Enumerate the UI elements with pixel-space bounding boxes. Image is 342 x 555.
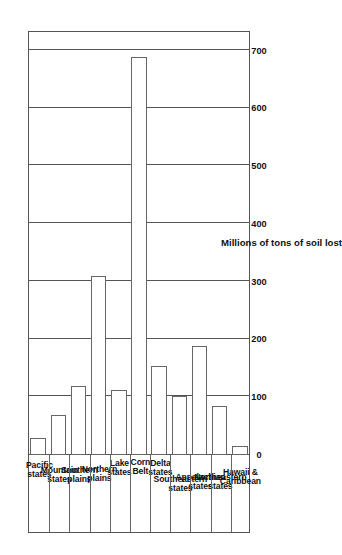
bar-mountain-states	[51, 415, 66, 455]
category-label-cell: Lakestates	[110, 454, 130, 532]
category-separator	[130, 455, 131, 532]
tick-label-300: 300	[254, 262, 264, 302]
bar-lake-states	[111, 390, 126, 455]
category-separator	[110, 455, 111, 532]
bar-southeastern-states	[172, 396, 187, 455]
bar-row	[48, 31, 68, 455]
tick-label-0: 0	[254, 435, 264, 475]
category-separator	[150, 455, 151, 532]
category-label-cell: CornBelt	[130, 454, 150, 532]
bar-northeastern-states	[212, 406, 227, 455]
bar-row	[169, 31, 189, 455]
bar-corn-belt	[131, 57, 146, 455]
category-label-cell: Appalachianstates	[190, 454, 210, 532]
category-label-cell: Northeasternstates	[211, 454, 231, 532]
bar-southern-plains	[71, 386, 86, 455]
category-separator	[170, 455, 171, 532]
bar-delta-states	[151, 366, 166, 455]
tick-label-text: 700	[251, 46, 266, 56]
tick-label-text: 200	[251, 335, 266, 345]
axis-title: Millions of tons of soil lost	[276, 31, 287, 455]
bar-northern-plains	[91, 276, 106, 455]
axis-title-text: Millions of tons of soil lost	[221, 238, 342, 249]
category-separator	[90, 455, 91, 532]
bar-row	[28, 31, 48, 455]
bar-pacific-states	[30, 438, 45, 455]
category-label-cell: Hawaii &Caribbean	[231, 454, 251, 532]
bar-appalachian-states	[192, 347, 207, 456]
category-label-line: states	[108, 469, 132, 478]
category-separator	[190, 455, 191, 532]
category-axis: PacificstatesMountainstatesSouthernplain…	[28, 455, 250, 533]
tick-label-text: 400	[251, 219, 266, 229]
tick-label-text: 0	[256, 450, 261, 460]
category-label: Lakestates	[108, 460, 132, 479]
category-label-line: Caribbean	[220, 478, 261, 487]
tick-label-text: 600	[251, 104, 266, 114]
bar-row	[189, 31, 209, 455]
tick-label-text: 300	[251, 277, 266, 287]
tick-label-200: 200	[254, 320, 264, 360]
bar-row	[89, 31, 109, 455]
tick-label-500: 500	[254, 146, 264, 186]
tick-label-700: 700	[254, 31, 264, 71]
tick-label-text: 100	[251, 392, 266, 402]
bar-row	[68, 31, 88, 455]
category-label-line: Belt	[130, 467, 150, 476]
tick-label-text: 500	[251, 161, 266, 171]
tick-label-600: 600	[254, 89, 264, 129]
category-label: CornBelt	[130, 457, 150, 476]
tick-label-100: 100	[254, 377, 264, 417]
category-separator	[231, 455, 232, 532]
bar-row	[149, 31, 169, 455]
category-separator	[49, 455, 50, 532]
category-separator	[211, 455, 212, 532]
category-label-cell: Southeasternstates	[170, 454, 190, 532]
bars-container	[28, 31, 250, 455]
bar-row	[109, 31, 129, 455]
bar-row	[129, 31, 149, 455]
category-separator	[69, 455, 70, 532]
